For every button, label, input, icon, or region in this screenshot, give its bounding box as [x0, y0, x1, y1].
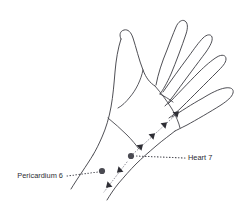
labels-group: Pericardium 6 Heart 7	[17, 153, 212, 180]
acupoint-markers-group	[99, 153, 134, 174]
little-finger-outline	[172, 88, 233, 131]
thumb-web-to-palm	[93, 39, 121, 155]
acupressure-diagram: Pericardium 6 Heart 7	[0, 0, 240, 210]
pericardium-6-point[interactable]	[99, 168, 105, 174]
hand-outline-group	[71, 20, 233, 200]
proximal-palm-crease	[108, 118, 139, 149]
pericardium-meridian-arrow-trail	[103, 166, 123, 190]
heart-7-point[interactable]	[128, 153, 134, 159]
thumb-and-radial-border	[120, 30, 155, 86]
pericardium-6-label: Pericardium 6	[17, 171, 63, 180]
hand-illustration: Pericardium 6 Heart 7	[0, 0, 240, 210]
thenar-crease	[118, 70, 143, 108]
pericardium-6-leader	[67, 172, 98, 176]
middle-finger-outline	[163, 35, 212, 106]
heart-7-label: Heart 7	[188, 153, 212, 162]
meridian-tracks-group	[104, 111, 180, 192]
leader-lines-group	[67, 156, 185, 176]
forearm-edge	[71, 155, 93, 189]
arrow-head-icon	[161, 120, 170, 129]
ulnar-border-to-wrist	[107, 131, 175, 200]
arrow-head-icon	[114, 166, 123, 175]
